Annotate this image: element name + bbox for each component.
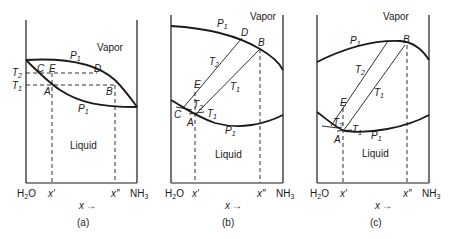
point-b: B [403, 34, 410, 45]
point-b: B [258, 37, 265, 48]
panel-c: Vapor Liquid P1 P1 T2 T1 T2 T1 E A B H2O… [310, 11, 440, 228]
nh3-label: NH3 [422, 188, 440, 200]
upper-p1-curve [171, 26, 283, 70]
point-a: A [333, 134, 341, 145]
liquid-label: Liquid [362, 148, 389, 159]
h2o-label: H2O [310, 188, 329, 200]
x-axis-label: x→ [374, 200, 392, 211]
t2-label: T2 [12, 67, 22, 79]
x-double-prime-label: x″ [402, 188, 412, 199]
panel-b: Vapor Liquid P1 P1 T2 T1 T2 T1 E C A D B… [165, 11, 294, 228]
liquid-label: Liquid [215, 149, 242, 160]
p1-lower-label: P1 [78, 103, 89, 115]
p1-upper-label: P1 [217, 18, 228, 30]
vapor-label: Vapor [97, 42, 124, 53]
t1-small-label: T1 [207, 108, 217, 120]
vapor-label: Vapor [250, 11, 277, 22]
p1-lower-label: P1 [371, 130, 382, 142]
vapor-liquid-equilibrium-diagrams: Vapor Liquid P1 P1 T2 T1 C E D A B H2O N… [0, 0, 453, 239]
x-axis-label: x→ [78, 200, 96, 211]
t2-small-label: T2 [333, 117, 343, 129]
x-prime-label: x′ [339, 188, 348, 199]
point-c: C [174, 109, 182, 120]
x-double-prime-label: x″ [256, 188, 266, 199]
x-prime-label: x′ [47, 188, 56, 199]
upper-p1-curve [317, 41, 429, 62]
vapor-label: Vapor [383, 11, 410, 22]
t2-small-label: T2 [193, 99, 203, 111]
caption-c: (c) [370, 217, 382, 228]
x-prime-label: x′ [191, 188, 200, 199]
point-d: D [94, 63, 101, 74]
nh3-label: NH3 [276, 188, 294, 200]
h2o-label: H2O [17, 188, 36, 200]
p1-upper-label: P1 [70, 50, 81, 62]
p1-upper-label: P1 [350, 35, 361, 47]
t1-label: T1 [12, 80, 22, 92]
point-b: B [106, 86, 113, 97]
point-d: D [241, 27, 248, 38]
x-axis-label: x→ [224, 200, 242, 211]
panel-a: Vapor Liquid P1 P1 T2 T1 C E D A B H2O N… [12, 20, 148, 228]
point-a: A [186, 117, 194, 128]
point-c: C [37, 63, 45, 74]
t1-line-label: T1 [230, 81, 240, 93]
t1-small-label: T1 [352, 124, 362, 136]
point-e: E [340, 97, 347, 108]
point-a: A [43, 86, 51, 97]
h2o-label: H2O [165, 188, 184, 200]
caption-b: (b) [222, 217, 234, 228]
t2-line-label: T2 [209, 56, 219, 68]
x-double-prime-label: x″ [110, 188, 120, 199]
point-e: E [194, 79, 201, 90]
t2-tie-line [331, 41, 388, 126]
t1-line-label: T1 [374, 87, 384, 99]
liquid-label: Liquid [70, 140, 97, 151]
nh3-label: NH3 [130, 188, 148, 200]
point-e: E [49, 63, 56, 74]
t2-line-label: T2 [355, 64, 365, 76]
caption-a: (a) [77, 217, 89, 228]
